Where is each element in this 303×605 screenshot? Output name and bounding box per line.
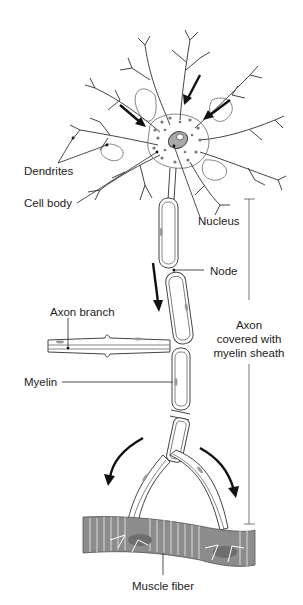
signal-arrows-to-soma	[120, 75, 230, 127]
label-muscle-fiber: Muscle fiber	[132, 579, 194, 593]
cell-body-illustration	[148, 114, 209, 168]
muscle-fiber-illustration	[83, 517, 255, 567]
label-axon-line2: covered with	[212, 332, 286, 346]
axon-branch-illustration	[48, 335, 170, 357]
label-dendrites: Dendrites	[24, 164, 73, 178]
label-axon-branch: Axon branch	[50, 305, 115, 319]
label-myelin: Myelin	[24, 375, 57, 389]
node-marker	[172, 268, 175, 271]
neuron-diagram	[0, 0, 303, 605]
label-cell-body: Cell body	[24, 196, 72, 210]
label-axon-line3: myelin sheath	[212, 346, 286, 360]
axon-illustration	[159, 168, 194, 463]
label-node: Node	[210, 264, 238, 278]
label-axon-myelin-sheath: Axon covered with myelin sheath	[212, 318, 286, 360]
label-axon-line1: Axon	[212, 318, 286, 332]
label-nucleus: Nucleus	[198, 214, 240, 228]
